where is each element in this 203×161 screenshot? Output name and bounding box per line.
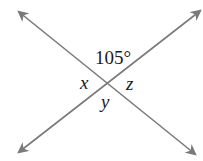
angle-label-right: z — [125, 73, 134, 94]
angle-label-top: 105° — [95, 47, 131, 68]
intersecting-lines-diagram: 105° x z y — [0, 0, 203, 161]
angle-label-bottom: y — [99, 91, 110, 112]
angle-label-left: x — [79, 72, 89, 93]
line-ascending — [19, 11, 200, 152]
